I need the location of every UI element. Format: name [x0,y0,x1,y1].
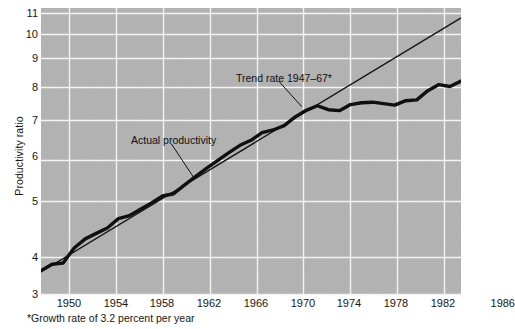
x-tick-1974: 1974 [327,297,371,309]
x-tick-1970: 1970 [281,297,325,309]
trend-rate-line [41,18,461,272]
x-tick-1986: 1986 [439,297,515,309]
x-tick-1950: 1950 [47,297,91,309]
annotation-leaders [171,81,301,179]
x-tick-1958: 1958 [140,297,184,309]
x-tick-1978: 1978 [374,297,418,309]
y-tick-11: 11 [14,8,38,19]
plot-background [41,8,461,295]
annotation-actual-productivity: Actual productivity [131,134,216,146]
y-tick-4: 4 [14,252,38,263]
y-tick-5: 5 [14,196,38,207]
chart-footnote: *Growth rate of 3.2 percent per year [27,312,195,324]
y-tick-7: 7 [14,115,38,126]
y-tick-6: 6 [14,151,38,162]
y-tick-10: 10 [14,29,38,40]
y-tick-8: 8 [14,82,38,93]
x-tick-1954: 1954 [94,297,138,309]
y-tick-9: 9 [14,53,38,64]
annotation-trend-rate: Trend rate 1947–67* [236,72,332,84]
plot-background-grain [41,8,461,295]
horizontal-gridlines [41,14,461,295]
vertical-gridlines [70,8,445,295]
x-tick-1966: 1966 [234,297,278,309]
y-axis-tick-labels: 11 10 9 8 7 6 5 4 3 [10,0,38,300]
y-tick-3: 3 [14,289,38,300]
x-tick-1962: 1962 [187,297,231,309]
actual-productivity-line [41,81,461,271]
